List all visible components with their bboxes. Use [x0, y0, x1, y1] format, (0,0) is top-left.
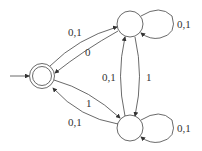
edge-q1-q2 [135, 37, 140, 116]
edge-q0-q1 [50, 27, 117, 66]
label-q2-q0: 0,1 [68, 116, 82, 128]
automaton-svg: 0,1 0 1 0,1 0,1 1 0,1 0,1 [0, 0, 202, 151]
state-q0-inner [33, 67, 52, 86]
state-q0-outer [30, 64, 55, 89]
label-q1-q0: 0 [85, 46, 91, 58]
automaton-diagram: 0,1 0 1 0,1 0,1 1 0,1 0,1 [0, 0, 202, 151]
label-q1-q2: 1 [146, 71, 152, 83]
label-q0-q2: 1 [86, 97, 92, 109]
edge-q2-q1 [121, 37, 126, 116]
state-q2 [117, 115, 143, 141]
state-q1 [117, 11, 143, 37]
label-q2-q1: 0,1 [102, 71, 116, 83]
label-q0-q1: 0,1 [68, 26, 82, 38]
edge-q2-loop [141, 114, 174, 142]
label-q1-loop: 0,1 [177, 18, 191, 30]
edge-q1-loop [141, 10, 174, 38]
label-q2-loop: 0,1 [177, 122, 191, 134]
